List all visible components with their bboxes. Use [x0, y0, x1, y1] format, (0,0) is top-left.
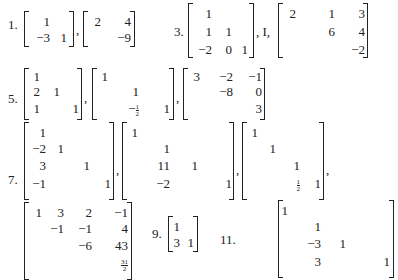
right-bracket — [69, 11, 74, 47]
p5-matrix-U: 3−2−1−803 — [183, 68, 265, 120]
matrix-entry: 1 — [105, 177, 112, 190]
p3-matrix-U: 21364−2 — [278, 3, 368, 58]
matrix-entry: 0 — [226, 43, 233, 56]
matrix-entry: 3 — [58, 206, 65, 219]
problem-1-label: 1. — [8, 17, 18, 33]
matrix-entry: 312 — [121, 257, 128, 272]
left-bracket — [278, 3, 283, 58]
matrix-entry: 1 — [164, 102, 171, 115]
matrix-entry: 6 — [329, 25, 336, 38]
matrix-entry: 1 — [206, 25, 213, 38]
matrix-entry: 4 — [125, 15, 132, 28]
matrix-entry: 3 — [194, 70, 201, 83]
problem-3-label: 3. — [174, 24, 184, 40]
matrix-entry: 1 — [58, 142, 65, 155]
p11-matrix: 11−3131 — [278, 200, 394, 278]
matrix-entry: 1 — [40, 126, 47, 139]
p9-matrix: 131 — [168, 216, 198, 252]
matrix-entry: 1 — [54, 85, 61, 98]
matrix-entry: 1 — [133, 85, 140, 98]
matrix-entry: 1 — [315, 220, 322, 233]
matrix-entry: 1 — [132, 126, 139, 139]
matrix-entry: −3 — [307, 237, 321, 250]
matrix-entry: −2 — [156, 177, 170, 190]
matrix-entry: 1 — [340, 237, 347, 250]
matrix-entry: 3 — [315, 255, 322, 268]
matrix-entry: 3 — [256, 102, 263, 115]
matrix-entry: 1 — [102, 70, 109, 83]
matrix-entry: −12 — [128, 102, 139, 117]
left-bracket — [242, 122, 247, 200]
matrix-entry: −8 — [219, 85, 233, 98]
comma: , — [176, 90, 179, 106]
left-bracket — [24, 11, 29, 47]
matrix-entry: 3 — [359, 7, 366, 20]
matrix-entry: 1 — [164, 142, 171, 155]
comma: , — [84, 90, 87, 106]
matrix-entry: 4 — [122, 222, 129, 235]
matrix-entry: 1 — [270, 142, 277, 155]
matrix-entry: 1 — [192, 159, 199, 172]
matrix-entry: 4 — [359, 25, 366, 38]
matrix-entry: −1 — [248, 70, 262, 83]
matrix-entry: 1 — [329, 7, 336, 20]
matrix-entry: −6 — [78, 239, 92, 252]
matrix-entry: 3 — [174, 236, 181, 249]
matrix-entry: 1 — [44, 15, 51, 28]
matrix-entry: 2 — [34, 85, 41, 98]
matrix-entry: 1 — [61, 31, 68, 44]
matrix-entry: 1 — [226, 177, 233, 190]
comma: , — [326, 162, 329, 178]
p5-matrix-L: 12111 — [24, 68, 82, 120]
matrix-entry: −3 — [36, 31, 50, 44]
comma: , — [116, 162, 119, 178]
matrix-entry: 1 — [174, 220, 181, 233]
matrix-entry: −9 — [117, 31, 131, 44]
matrix-entry: 1 — [226, 25, 233, 38]
matrix-entry: −1 — [78, 222, 92, 235]
p7-matrix-L1: 1−2131−11 — [24, 122, 114, 200]
left-bracket — [24, 202, 29, 280]
matrix-entry: 1 — [36, 206, 43, 219]
matrix-entry: 1 — [206, 7, 213, 20]
matrix-entry: 1 — [34, 102, 41, 115]
matrix-entry: 43 — [115, 239, 128, 252]
p7-matrix-L2: 11111−21 — [122, 122, 234, 200]
left-bracket — [188, 3, 193, 58]
left-bracket — [92, 68, 97, 120]
problem-11-label: 11. — [220, 232, 236, 248]
left-bracket — [24, 68, 29, 120]
matrix-entry: 1 — [73, 102, 80, 115]
left-bracket — [83, 11, 88, 47]
p1-matrix-L: 1−31 — [24, 11, 74, 47]
matrix-entry: 2 — [86, 206, 93, 219]
problem-5-label: 5. — [8, 91, 18, 107]
right-bracket — [249, 3, 254, 58]
matrix-entry: −2 — [198, 43, 212, 56]
p7-matrix-L3: 111121 — [242, 122, 324, 200]
matrix-entry: 2 — [95, 15, 102, 28]
matrix-entry: −1 — [32, 177, 46, 190]
p3-matrix-L: 111−201 — [188, 3, 254, 58]
identity-separator: , I, — [256, 24, 270, 40]
comma: , — [236, 162, 239, 178]
p1-matrix-U: 24−9 — [83, 11, 135, 47]
matrix-entry: 11 — [157, 159, 170, 172]
matrix-entry: −1 — [50, 222, 64, 235]
matrix-entry: 3 — [40, 159, 47, 172]
matrix-entry: 2 — [290, 7, 297, 20]
matrix-entry: 1 — [384, 255, 391, 268]
left-bracket — [122, 122, 127, 200]
matrix-entry: 0 — [256, 85, 263, 98]
matrix-entry: 1 — [252, 126, 259, 139]
p5-matrix-D: 11−121 — [92, 68, 174, 120]
matrix-entry: 1 — [188, 236, 195, 249]
p7-matrix-U: 132−1−1−14−643312 — [24, 202, 132, 280]
matrix-entry: 1 — [84, 159, 91, 172]
matrix-entry: 1 — [315, 177, 322, 190]
matrix-entry: 1 — [282, 204, 289, 217]
matrix-entry: 1 — [242, 43, 249, 56]
problem-7-label: 7. — [8, 172, 18, 188]
matrix-entry: −2 — [32, 142, 46, 155]
matrix-entry: −2 — [351, 43, 365, 56]
